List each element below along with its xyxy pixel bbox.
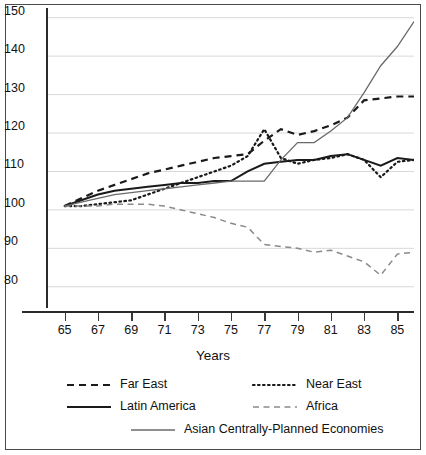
x-tick-label: 73	[183, 323, 213, 337]
x-tick-mark	[131, 313, 132, 321]
x-tick-mark	[98, 313, 99, 321]
legend-label-latin-america: Latin America	[120, 400, 196, 413]
x-tick-label: 83	[349, 323, 379, 337]
x-tick-mark	[65, 313, 66, 321]
x-tick-label: 69	[116, 323, 146, 337]
y-tick-label: 110	[4, 158, 44, 170]
y-tick-label: 120	[4, 120, 44, 132]
x-tick-label: 75	[216, 323, 246, 337]
y-tick-label: 80	[4, 274, 44, 286]
y-tick-label: 100	[4, 197, 44, 209]
x-tick-mark	[364, 313, 365, 321]
y-tick-label: 130	[4, 82, 44, 94]
gridlines	[48, 18, 414, 287]
legend-swatch-near-east	[252, 379, 298, 391]
legend-entry-near-east[interactable]: Near East	[252, 378, 362, 391]
x-tick-label: 79	[283, 323, 313, 337]
plot-area	[48, 10, 414, 306]
data-series-group	[65, 22, 414, 276]
chart-legend: Far EastNear EastLatin AmericaAfricaAsia…	[0, 378, 426, 440]
x-tick-label: 65	[50, 323, 80, 337]
x-tick-mark	[164, 313, 165, 321]
legend-label-far-east: Far East	[120, 378, 167, 391]
x-tick-label: 85	[382, 323, 412, 337]
x-tick-label: 67	[83, 323, 113, 337]
x-tick-label: 81	[316, 323, 346, 337]
x-tick-mark	[198, 313, 199, 321]
x-axis-title: Years	[0, 348, 426, 363]
legend-swatch-latin-america	[66, 401, 112, 413]
x-axis-ticks: 6567697173757779818385	[0, 313, 426, 343]
series-line-africa	[65, 204, 414, 275]
x-tick-label: 71	[149, 323, 179, 337]
series-canvas	[48, 10, 414, 306]
legend-swatch-asian-centrally-planned-economies	[130, 424, 176, 436]
x-tick-mark	[264, 313, 265, 321]
legend-entry-far-east[interactable]: Far East	[66, 378, 167, 391]
legend-label-asian-centrally-planned-economies: Asian Centrally-Planned Economies	[184, 423, 383, 436]
y-tick-label: 90	[4, 235, 44, 247]
legend-swatch-far-east	[66, 379, 112, 391]
y-tick-label: 150	[4, 5, 44, 17]
legend-label-near-east: Near East	[306, 378, 362, 391]
x-tick-mark	[331, 313, 332, 321]
legend-entry-latin-america[interactable]: Latin America	[66, 400, 196, 413]
x-tick-mark	[397, 313, 398, 321]
legend-entry-africa[interactable]: Africa	[252, 400, 338, 413]
legend-swatch-africa	[252, 401, 298, 413]
line-chart-figure: 8090100110120130140150 65676971737577798…	[0, 0, 426, 455]
legend-label-africa: Africa	[306, 400, 338, 413]
y-axis-tick-labels: 8090100110120130140150	[0, 0, 44, 316]
x-tick-label: 77	[249, 323, 279, 337]
x-tick-mark	[298, 313, 299, 321]
x-tick-mark	[231, 313, 232, 321]
series-line-asian-centrally-planned-economies	[65, 22, 414, 207]
y-tick-label: 140	[4, 43, 44, 55]
legend-entry-asian-centrally-planned-economies[interactable]: Asian Centrally-Planned Economies	[130, 423, 383, 436]
